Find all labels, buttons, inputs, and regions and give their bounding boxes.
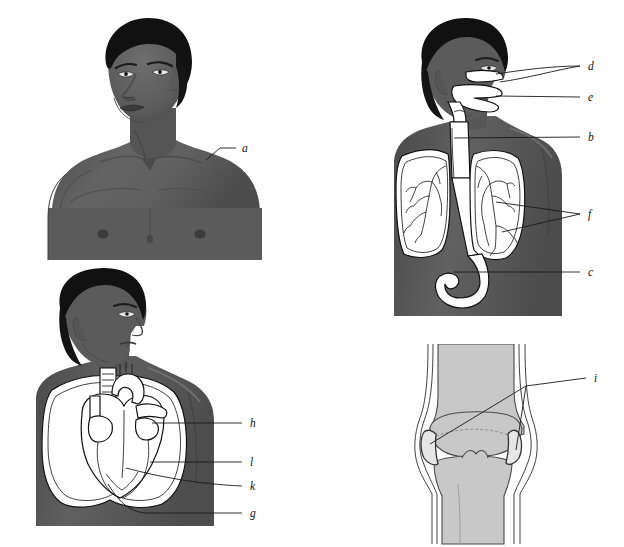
pupil-left	[124, 72, 128, 76]
meniscus-medial	[506, 430, 522, 464]
label-l: l	[250, 456, 253, 468]
label-d: d	[588, 60, 594, 72]
meniscus-lateral	[421, 430, 438, 464]
panel-heart-and-lungs: h l k g	[36, 268, 296, 538]
anatomy-figure-sheet: a	[0, 0, 624, 547]
sternum-dimple	[147, 235, 153, 243]
label-h: h	[250, 417, 256, 429]
leader-line-e	[496, 96, 580, 97]
label-e: e	[588, 91, 593, 103]
superior-vena-cava	[90, 396, 100, 418]
panel-knee-joint: i	[408, 344, 624, 547]
label-k: k	[250, 480, 256, 492]
label-i: i	[594, 372, 597, 384]
left-atrium	[135, 418, 158, 440]
joint-capsule-outer-right	[520, 344, 537, 544]
pupil	[487, 66, 491, 70]
label-f: f	[588, 208, 593, 221]
panel-respiratory-tract: d e b f c	[392, 16, 624, 332]
chest-block	[48, 208, 262, 260]
leader-line-i-stem	[526, 378, 586, 386]
label-g: g	[250, 507, 256, 520]
leader-line-d-upper	[496, 66, 580, 74]
nipple-left	[98, 230, 109, 239]
pupil-right	[158, 70, 162, 74]
label-b: b	[588, 131, 594, 143]
right-atrium	[88, 416, 112, 442]
nipple-right	[195, 230, 206, 239]
label-a: a	[242, 142, 248, 154]
nasal-cavity	[466, 71, 503, 83]
trachea	[450, 122, 470, 178]
panel-external-body: a	[30, 12, 280, 260]
pupil	[125, 312, 129, 316]
tibia-bone	[434, 456, 512, 544]
label-c: c	[588, 266, 593, 278]
